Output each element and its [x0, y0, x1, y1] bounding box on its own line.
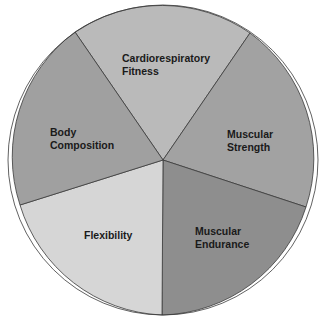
label-line: Composition: [50, 139, 114, 152]
label-line: Cardiorespiratory: [122, 52, 210, 65]
label-cardiorespiratory-fitness: Cardiorespiratory Fitness: [122, 52, 210, 77]
label-line: Fitness: [122, 65, 210, 78]
label-line: Body: [50, 126, 114, 139]
label-muscular-strength: Muscular Strength: [227, 128, 273, 153]
label-line: Muscular: [195, 225, 249, 238]
label-line: Strength: [227, 141, 273, 154]
label-line: Flexibility: [84, 229, 132, 242]
label-body-composition: Body Composition: [50, 126, 114, 151]
label-line: Muscular: [227, 128, 273, 141]
label-muscular-endurance: Muscular Endurance: [195, 225, 249, 250]
label-line: Endurance: [195, 238, 249, 251]
label-flexibility: Flexibility: [84, 229, 132, 242]
pie-chart: [0, 0, 319, 325]
